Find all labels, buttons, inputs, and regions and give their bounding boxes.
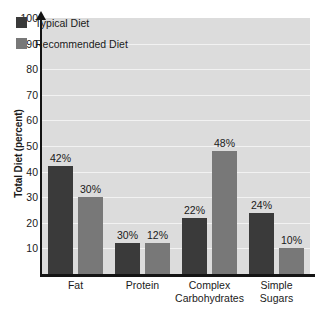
legend-label-typical-diet: Typical Diet — [35, 17, 89, 29]
legend-label-recommended-diet: Recommended Diet — [35, 38, 128, 50]
y-axis-tick-80: 80 — [2, 64, 38, 75]
y-axis-tick-60: 60 — [2, 115, 38, 126]
legend-item-typical-diet: Typical Diet — [16, 12, 128, 33]
y-axis-tick-10: 10 — [2, 243, 38, 254]
bars-layer: 42%30%30%12%22%48%24%10% — [42, 18, 310, 274]
y-axis-line — [40, 18, 42, 274]
bar-value-label: 10% — [273, 235, 310, 246]
bar-value-label: 22% — [176, 205, 213, 216]
legend-swatch-icon-recommended-diet — [16, 38, 27, 49]
bar-fat-recommended — [78, 197, 103, 274]
bar-fat-typical — [48, 166, 73, 274]
bar-value-label: 42% — [42, 153, 79, 164]
y-axis-tick-20: 20 — [2, 218, 38, 229]
y-axis-tick-30: 30 — [2, 192, 38, 203]
y-axis-tick-40: 40 — [2, 166, 38, 177]
x-axis-label-line: Simple — [229, 279, 322, 292]
x-axis-label-simple-sugars: SimpleSugars — [229, 279, 322, 304]
bar-value-label: 48% — [206, 138, 243, 149]
legend-swatch-icon-typical-diet — [16, 17, 27, 28]
y-axis-tick-70: 70 — [2, 90, 38, 101]
bar-protein-recommended — [145, 243, 170, 274]
bar-complex-carbohydrates-typical — [182, 218, 207, 274]
bar-protein-typical — [115, 243, 140, 274]
x-axis-line — [40, 274, 315, 277]
y-axis-tick-50: 50 — [2, 141, 38, 152]
bar-chart: Total Diet (percent) 1009080706050403020… — [0, 0, 322, 321]
bar-value-label: 30% — [72, 184, 109, 195]
bar-simple-sugars-typical — [249, 213, 274, 274]
x-axis-label-line: Sugars — [229, 292, 322, 305]
legend: Typical Diet Recommended Diet — [16, 12, 128, 54]
legend-item-recommended-diet: Recommended Diet — [16, 33, 128, 54]
bar-simple-sugars-recommended — [279, 248, 304, 274]
plot-area: 42%30%30%12%22%48%24%10% — [42, 18, 310, 274]
bar-value-label: 24% — [243, 200, 280, 211]
x-axis-category-labels: FatProteinComplexCarbohydratesSimpleSuga… — [0, 279, 322, 321]
bar-complex-carbohydrates-recommended — [212, 151, 237, 274]
bar-value-label: 12% — [139, 230, 176, 241]
